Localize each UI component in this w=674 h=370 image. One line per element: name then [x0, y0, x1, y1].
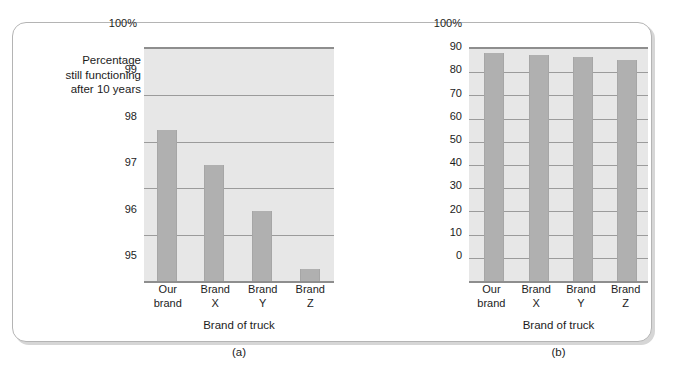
- x-category-labels-a: Our brand Brand X Brand Y Brand Z: [144, 283, 334, 317]
- plot-area-a: [144, 47, 334, 283]
- y-tick-b-60: 60: [450, 110, 466, 122]
- y-tick-b-70: 70: [450, 87, 466, 99]
- y-tick-b-20: 20: [450, 203, 466, 215]
- plot-area-b: [469, 47, 648, 283]
- x-axis-title-b: Brand of truck: [469, 319, 648, 331]
- x-axis-title-a: Brand of truck: [144, 319, 334, 331]
- y-tick-a-99: 99: [125, 63, 141, 75]
- y-tick-labels-b: 100% 90 80 70 60 50 40 30 20 10 0: [420, 23, 466, 255]
- y-tick-b-100: 100%: [434, 17, 466, 29]
- y-tick-b-0: 0: [456, 249, 466, 261]
- y-tick-b-30: 30: [450, 179, 466, 191]
- y-tick-a-95: 95: [125, 249, 141, 261]
- y-tick-a-98: 98: [125, 110, 141, 122]
- chart-panel-b: Percentage still functioning after 10 ye…: [331, 23, 653, 343]
- y-tick-b-10: 10: [450, 226, 466, 238]
- y-tick-a-97: 97: [125, 156, 141, 168]
- y-tick-a-96: 96: [125, 203, 141, 215]
- gridline-a-99: [144, 95, 334, 96]
- bar-b-our-brand: [484, 53, 504, 281]
- y-tick-a-100: 100%: [109, 17, 141, 29]
- bar-a-brand-y: [252, 211, 272, 281]
- bar-b-brand-x: [529, 55, 549, 281]
- y-tick-b-50: 50: [450, 133, 466, 145]
- x-label-b-our-brand: Our brand: [469, 283, 514, 317]
- y-tick-b-40: 40: [450, 156, 466, 168]
- bar-a-our-brand: [157, 130, 177, 281]
- x-label-b-brand-y: Brand Y: [559, 283, 604, 317]
- chart-panel-a: Percentage still functioning after 10 ye…: [13, 23, 343, 343]
- y-tick-b-90: 90: [450, 40, 466, 52]
- figure-frame: Percentage still functioning after 10 ye…: [12, 22, 652, 342]
- x-label-b-brand-x: Brand X: [514, 283, 559, 317]
- y-tick-b-80: 80: [450, 63, 466, 75]
- x-label-a-brand-y: Brand Y: [239, 283, 287, 317]
- panel-caption-a: (a): [144, 346, 334, 358]
- bar-b-brand-y: [573, 57, 593, 281]
- bar-a-brand-z: [300, 269, 320, 281]
- x-label-a-brand-z: Brand Z: [287, 283, 335, 317]
- x-label-b-brand-z: Brand Z: [603, 283, 648, 317]
- bar-b-brand-z: [617, 60, 637, 281]
- x-label-a-brand-x: Brand X: [192, 283, 240, 317]
- y-tick-labels-a: 100% 99 98 97 96 95: [95, 23, 141, 255]
- bar-a-brand-x: [204, 165, 224, 281]
- x-category-labels-b: Our brand Brand X Brand Y Brand Z: [469, 283, 648, 317]
- panel-caption-b: (b): [469, 346, 648, 358]
- x-label-a-our-brand: Our brand: [144, 283, 192, 317]
